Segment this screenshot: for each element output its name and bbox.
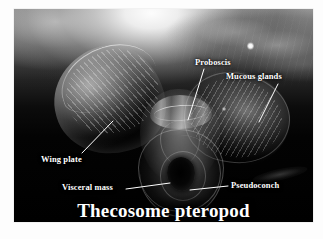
pteropod-photograph: Proboscis Mucous glands Wing plate Visce… xyxy=(14,9,313,222)
annotation-label-visceral-mass: Visceral mass xyxy=(62,183,113,192)
annotation-label-mucous-glands: Mucous glands xyxy=(226,72,282,81)
leader-line-pseudoconch xyxy=(190,186,228,190)
annotation-label-proboscis: Proboscis xyxy=(195,58,231,67)
annotation-label-wing-plate: Wing plate xyxy=(41,155,82,164)
leader-line-mucous-glands xyxy=(259,84,278,122)
figure-root: Proboscis Mucous glands Wing plate Visce… xyxy=(0,0,323,239)
leader-line-visceral-mass xyxy=(126,183,170,189)
figure-caption: Thecosome pteropod xyxy=(14,201,313,221)
leader-line-wing-plate xyxy=(82,121,113,153)
annotation-leader-lines xyxy=(14,9,313,222)
leader-line-proboscis xyxy=(188,69,204,120)
annotation-label-pseudoconch: Pseudoconch xyxy=(231,181,279,190)
